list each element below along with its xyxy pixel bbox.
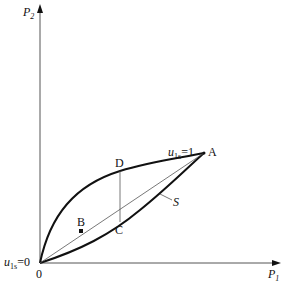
x-axis-label: P1 bbox=[268, 268, 279, 283]
point-b-marker bbox=[79, 229, 83, 233]
point-a-marker bbox=[203, 152, 206, 155]
point-d-label: D bbox=[115, 157, 124, 169]
curve-s-label: S bbox=[173, 196, 179, 208]
x-axis-arrow-icon bbox=[272, 260, 281, 266]
diagram: P2 P1 0 A B C D S u1s=1 u1s=0 bbox=[0, 0, 284, 285]
y-axis-label: P2 bbox=[23, 6, 34, 21]
origin-label: 0 bbox=[36, 268, 42, 280]
s-leader bbox=[160, 194, 172, 200]
point-c-label: C bbox=[115, 224, 123, 236]
point-a-label: A bbox=[208, 146, 217, 158]
y-axis-arrow-icon bbox=[37, 4, 43, 13]
annotation-u1s-1: u1s=1 bbox=[168, 146, 194, 161]
annotation-u1s-0: u1s=0 bbox=[4, 256, 30, 271]
diagram-canvas bbox=[0, 0, 284, 285]
point-b-label: B bbox=[77, 216, 85, 228]
